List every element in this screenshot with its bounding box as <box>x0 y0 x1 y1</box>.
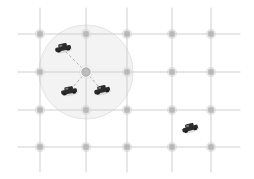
network-diagram-canvas <box>0 0 254 179</box>
intersection-node-9[interactable] <box>208 69 215 76</box>
intersection-node-11[interactable] <box>83 107 90 114</box>
intersection-node-7[interactable] <box>124 69 131 76</box>
roadside-unit[interactable] <box>80 66 92 78</box>
intersection-node-14[interactable] <box>208 107 215 114</box>
roadside-unit-dot[interactable] <box>82 68 90 76</box>
intersection-node-8[interactable] <box>169 69 176 76</box>
intersection-node-18[interactable] <box>169 144 176 151</box>
network-scene <box>0 0 254 179</box>
intersection-node-17[interactable] <box>124 144 131 151</box>
intersection-node-1[interactable] <box>83 31 90 38</box>
intersection-node-5[interactable] <box>37 69 44 76</box>
intersection-node-15[interactable] <box>37 144 44 151</box>
intersection-node-12[interactable] <box>124 107 131 114</box>
intersection-node-19[interactable] <box>208 144 215 151</box>
intersection-node-3[interactable] <box>169 31 176 38</box>
intersection-node-0[interactable] <box>37 31 44 38</box>
intersection-node-4[interactable] <box>208 31 215 38</box>
intersection-node-2[interactable] <box>124 31 131 38</box>
intersection-node-13[interactable] <box>169 107 176 114</box>
intersection-node-16[interactable] <box>83 144 90 151</box>
intersection-node-10[interactable] <box>37 107 44 114</box>
